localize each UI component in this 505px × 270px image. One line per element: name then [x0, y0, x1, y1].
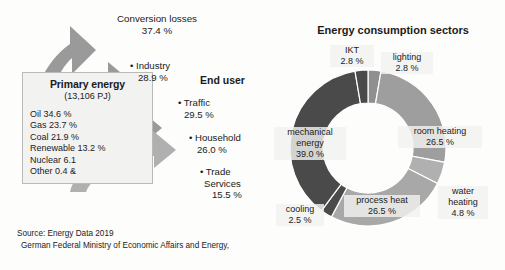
process-heat-value: 26.5 % — [346, 206, 418, 217]
mechanical-name-1: mechanical — [276, 127, 344, 138]
traffic-label: • Traffic — [178, 97, 214, 109]
source-line-1: Source: Energy Data 2019 — [17, 228, 229, 240]
primary-energy-box: Primary energy (13,106 PJ) Oil 34.6 % Ga… — [22, 72, 153, 184]
primary-energy-title: Primary energy — [30, 78, 145, 90]
label-cooling: cooling 2.5 % — [276, 204, 324, 226]
label-lighting: lighting 2.8 % — [381, 52, 433, 74]
household-value: 26.0 % — [189, 144, 241, 156]
room-heating-name: room heating — [400, 126, 480, 137]
end-user-industry: • Industry 28.9 % — [130, 60, 210, 83]
list-item: Nuclear 6.1 — [30, 155, 145, 166]
lighting-name: lighting — [383, 52, 431, 63]
source-line-2: German Federal Ministry of Economic Affa… — [17, 240, 229, 252]
label-mechanical-energy: mechanical energy 39.0 % — [274, 127, 346, 160]
label-process-heat: process heat 26.5 % — [344, 195, 420, 217]
end-user-household: • Household 26.0 % — [189, 132, 241, 155]
segment-room-heating — [376, 71, 446, 162]
industry-label: • Industry — [130, 60, 210, 72]
water-heating-name-1: water — [440, 186, 486, 197]
mechanical-name-2: energy — [276, 138, 344, 149]
end-user-traffic: • Traffic 29.5 % — [178, 97, 214, 120]
process-heat-name: process heat — [346, 195, 418, 206]
primary-energy-list: Oil 34.6 % Gas 23.7 % Coal 21.9 % Renewa… — [30, 109, 145, 177]
infographic-canvas: Primary energy (13,106 PJ) Oil 34.6 % Ga… — [0, 0, 505, 270]
mechanical-value: 39.0 % — [276, 149, 344, 160]
conversion-losses-value: 37.4 % — [92, 25, 222, 37]
ikt-value: 2.8 % — [332, 56, 372, 67]
lighting-value: 2.8 % — [383, 63, 431, 74]
cooling-value: 2.5 % — [278, 215, 322, 226]
primary-energy-subtitle: (13,106 PJ) — [30, 90, 145, 102]
donut-chart-title: Energy consumption sectors — [303, 24, 483, 36]
list-item: Other 0.4 & — [30, 166, 145, 177]
label-ikt: IKT 2.8 % — [330, 45, 374, 67]
conversion-losses-text: Conversion losses — [92, 13, 222, 25]
trade-label-line2: Services — [200, 178, 242, 190]
label-room-heating: room heating 26.5 % — [398, 126, 482, 148]
household-label: • Household — [189, 132, 241, 144]
list-item: Oil 34.6 % — [30, 109, 145, 120]
room-heating-value: 26.5 % — [400, 137, 480, 148]
cooling-name: cooling — [278, 204, 322, 215]
end-user-trade-services: • Trade Services 15.5 % — [200, 166, 242, 201]
source-note: Source: Energy Data 2019 German Federal … — [17, 228, 229, 251]
list-item: Coal 21.9 % — [30, 132, 145, 143]
list-item: Renewable 13.2 % — [30, 143, 145, 154]
list-item: Gas 23.7 % — [30, 120, 145, 131]
ikt-name: IKT — [332, 45, 372, 56]
trade-value: 15.5 % — [200, 189, 242, 201]
trade-label: • Trade — [200, 166, 242, 178]
traffic-value: 29.5 % — [178, 109, 214, 121]
conversion-losses-label: Conversion losses 37.4 % — [92, 13, 222, 37]
industry-value: 28.9 % — [130, 72, 210, 84]
end-user-title: End user — [200, 74, 245, 86]
water-heating-name-2: heating — [440, 197, 486, 208]
label-water-heating: water heating 4.8 % — [438, 186, 488, 219]
water-heating-value: 4.8 % — [440, 208, 486, 219]
